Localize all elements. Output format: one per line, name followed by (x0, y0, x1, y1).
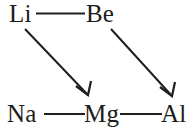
li-to-mg-arrow-head (76, 81, 91, 95)
li-to-mg-arrow (25, 29, 91, 95)
be-to-al-arrow (111, 29, 175, 96)
element-node-al: Al (161, 101, 186, 126)
element-node-li: Li (9, 1, 32, 26)
be-to-al-arrow-shaft (111, 29, 172, 96)
diagonal-relationship-diagram: Li Be Na Mg Al (0, 0, 194, 135)
element-node-mg: Mg (84, 101, 119, 126)
be-to-al-arrow-head (160, 82, 175, 96)
element-node-be: Be (86, 1, 114, 26)
element-node-na: Na (7, 101, 37, 126)
li-to-mg-arrow-shaft (25, 29, 88, 95)
